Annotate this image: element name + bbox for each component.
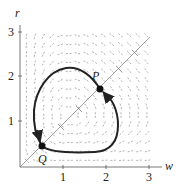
closed-orbit	[34, 68, 118, 153]
x-tick-label-1: 1	[60, 170, 66, 184]
point-q-label: Q	[38, 152, 47, 166]
w-axis-label: w	[165, 159, 173, 173]
x-tick-label-2: 2	[103, 170, 109, 184]
phase-plane-svg: P Q r w 1 2 3 1 2 3	[0, 0, 187, 185]
y-tick-label-1: 1	[8, 114, 14, 128]
point-p	[97, 86, 104, 93]
point-q	[39, 143, 46, 150]
x-tick-label-3: 3	[146, 170, 152, 184]
r-axis-label: r	[15, 6, 20, 20]
y-tick-label-2: 2	[8, 69, 14, 83]
ticks	[18, 32, 149, 169]
point-p-label: P	[91, 69, 100, 83]
phase-plane-diagram: P Q r w 1 2 3 1 2 3	[0, 0, 187, 185]
y-tick-label-3: 3	[8, 25, 14, 39]
